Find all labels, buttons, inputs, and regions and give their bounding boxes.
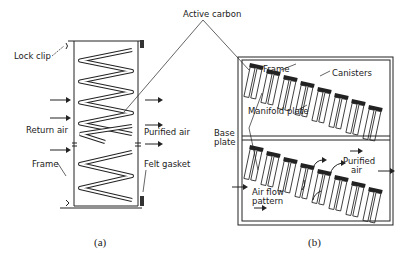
canister xyxy=(328,93,349,129)
air-flow-label-2: pattern xyxy=(252,196,283,206)
canister-filter-b: Frame Canisters Manifold plate Base plat… xyxy=(214,57,395,225)
canister xyxy=(328,175,349,211)
frame-label-b: Frame xyxy=(263,64,289,74)
manifold-plate-label: Manifold plate xyxy=(248,106,308,116)
purified-air-label-a: Purified air xyxy=(144,127,190,137)
canister xyxy=(243,63,264,99)
canister xyxy=(362,187,383,223)
canister xyxy=(260,151,281,187)
canister xyxy=(345,181,366,217)
canister xyxy=(311,169,332,205)
purified-air-label-b2: air xyxy=(351,165,363,175)
return-air-label: Return air xyxy=(26,125,68,135)
active-carbon-leader-a xyxy=(124,20,203,112)
lock-clip-label: Lock clip xyxy=(14,51,51,61)
frame-label-a: Frame xyxy=(32,159,58,169)
lock-clip-icon xyxy=(66,43,68,49)
caption-b: (b) xyxy=(308,236,321,249)
canister xyxy=(260,69,281,105)
base-plate-label-2: plate xyxy=(214,137,236,147)
canister xyxy=(345,99,366,135)
activated-carbon-filter-diagram: Lock clip Return air Purified air Frame … xyxy=(0,0,403,257)
outlet-arrows xyxy=(145,97,163,147)
active-carbon-pleats xyxy=(80,50,132,200)
canisters-label: Canisters xyxy=(332,68,372,78)
felt-gasket-label: Felt gasket xyxy=(144,159,191,169)
caption-a: (a) xyxy=(94,236,107,249)
active-carbon-label: Active carbon xyxy=(183,9,241,19)
frame-clip-icon xyxy=(66,200,69,206)
canister xyxy=(243,145,264,181)
felt-gasket xyxy=(140,196,144,206)
canister xyxy=(311,87,332,123)
top-gasket xyxy=(140,40,144,48)
